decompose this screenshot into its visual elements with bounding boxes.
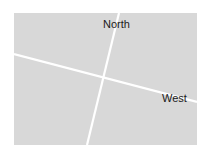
north-south-road: [87, 13, 119, 145]
west-label: West: [162, 93, 187, 104]
north-label: North: [103, 19, 130, 30]
map-roads: [14, 13, 197, 145]
map-panel: North West: [14, 13, 197, 145]
